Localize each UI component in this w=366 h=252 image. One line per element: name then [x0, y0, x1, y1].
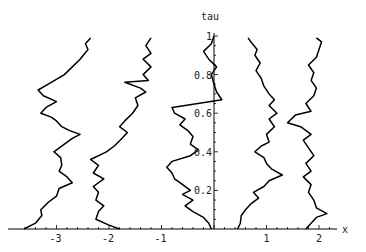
ticks-group: -3-2-1120.20.40.60.81 — [25, 31, 330, 244]
x-tick-label: -3 — [50, 233, 62, 244]
y-tick-label: 1 — [206, 31, 212, 42]
x-axis-label: x — [342, 224, 348, 235]
series-line-5 — [288, 38, 327, 229]
series-line-4 — [238, 38, 283, 229]
series-line-1 — [24, 38, 91, 229]
x-tick-label: -1 — [155, 233, 167, 244]
y-tick-label: 0.6 — [194, 108, 212, 119]
x-tick-label: -2 — [102, 233, 114, 244]
y-tick-label: 0.4 — [194, 147, 212, 158]
y-tick-label: 0.2 — [194, 185, 212, 196]
y-axis-label: tau — [201, 11, 219, 22]
x-tick-label: 2 — [316, 233, 322, 244]
y-tick-label: 0.8 — [194, 70, 212, 81]
x-tick-label: 1 — [264, 233, 270, 244]
chart: -3-2-1120.20.40.60.81 x tau — [0, 0, 366, 252]
series-line-2 — [91, 38, 151, 229]
curves-group — [24, 36, 327, 229]
